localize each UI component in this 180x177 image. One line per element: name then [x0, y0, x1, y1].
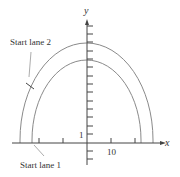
start-lane-1-label: Start lane 1 — [20, 160, 61, 170]
start-lane-2-pointer — [29, 52, 31, 77]
y-axis-label: y — [83, 5, 89, 16]
y-axis-ticks — [87, 26, 93, 159]
start-lane-1-pointer — [34, 145, 44, 156]
y-tick-label-1: 1 — [79, 130, 84, 140]
x-tick-label-10: 10 — [107, 147, 117, 157]
race-track-diagram: y x 10 1 Start lane 2 Start lane 1 — [0, 0, 180, 177]
y-axis-arrow-icon — [85, 19, 89, 25]
x-axis-label: x — [164, 137, 170, 148]
start-lane-2-label: Start lane 2 — [10, 37, 51, 47]
